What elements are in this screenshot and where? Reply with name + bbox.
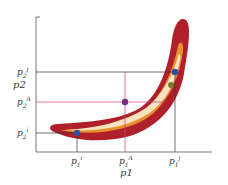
point-i (74, 130, 80, 136)
y-tick-label-A: p2A (17, 96, 31, 109)
y-tick-label-j: p2j (17, 66, 28, 79)
y-axis-label: p2 (13, 80, 26, 90)
point-A (122, 99, 128, 105)
diagram-canvas (0, 0, 228, 185)
x-tick-label-i: p1i (71, 155, 83, 168)
point-extra (168, 82, 174, 88)
x-tick-label-j: p1j (169, 155, 180, 168)
point-j (172, 69, 178, 75)
x-tick-label-A: p1A (119, 155, 133, 168)
y-tick-label-i: p2i (17, 127, 29, 140)
x-axis-label: p1 (120, 168, 133, 178)
